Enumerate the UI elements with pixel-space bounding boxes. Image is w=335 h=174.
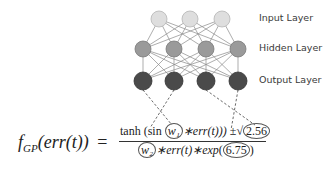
function-argument: (err(t)) <box>38 132 89 152</box>
hidden-node <box>198 41 214 57</box>
output-node <box>134 72 152 90</box>
output-node <box>165 72 183 90</box>
formula-lhs: fGP(err(t)) = <box>18 132 107 154</box>
output-node <box>229 72 247 90</box>
formula-denominator: w₂∗err(t)∗exp(6.75) <box>138 143 254 158</box>
input-node <box>182 11 198 27</box>
input-layer-label: Input Layer <box>259 12 313 23</box>
output-node <box>197 72 215 90</box>
input-layer-nodes <box>151 11 230 27</box>
constant-6-75: 6.75 <box>223 142 250 158</box>
fraction-bar <box>119 141 266 142</box>
hidden-node <box>135 41 151 57</box>
sin-text: (sin <box>144 124 162 138</box>
input-node <box>151 11 167 27</box>
w2-weight: w₂ <box>138 142 156 158</box>
input-node <box>214 11 230 27</box>
output-layer-label: Output Layer <box>259 74 322 85</box>
equals-sign: = <box>97 132 107 152</box>
denominator-err-exp: ∗err(t)∗exp <box>156 143 219 157</box>
hidden-layer-label: Hidden Layer <box>259 42 322 53</box>
function-subscript: GP <box>23 142 38 154</box>
w1-weight: w₁ <box>165 123 183 139</box>
constant-2-56: 2.56 <box>243 123 270 139</box>
formula-numerator: tanh (sin w₁∗err(t))) ±√2.56 <box>120 124 270 139</box>
tanh-text: tanh <box>120 124 141 138</box>
hidden-node <box>230 41 246 57</box>
hidden-node <box>166 41 182 57</box>
connections <box>143 19 238 80</box>
numerator-err: ∗err(t))) <box>183 124 227 138</box>
output-layer-nodes <box>134 72 247 90</box>
